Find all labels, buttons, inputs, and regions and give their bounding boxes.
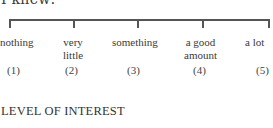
section-heading: LEVEL OF INTEREST — [1, 104, 125, 119]
scale-label-5: a lot — [245, 36, 264, 49]
scale-label-text: amount — [184, 49, 217, 62]
scale-label-text: little — [63, 49, 83, 62]
scale-tick-5 — [268, 19, 270, 28]
scale-number-3: (3) — [127, 64, 140, 76]
scale-tick-3 — [137, 19, 139, 28]
scale-line — [9, 19, 269, 21]
scale-number-4: (4) — [193, 64, 206, 76]
prompt-text: I knew: — [1, 0, 56, 7]
scale-number-1: (1) — [7, 64, 20, 76]
scale-tick-4 — [202, 19, 204, 28]
scale-label-2: very little — [63, 36, 83, 62]
scale-tick-1 — [9, 19, 11, 28]
scale-label-text: very — [63, 36, 83, 49]
scale-label-text: nothing — [0, 36, 34, 49]
scale-label-3: something — [112, 36, 158, 49]
scale-label-text: something — [112, 36, 158, 49]
scale-label-1: nothing — [0, 36, 34, 49]
scale-label-text: a lot — [245, 36, 264, 49]
scale-label-text: a good — [184, 36, 217, 49]
scale-number-2: (2) — [65, 64, 78, 76]
scale-tick-2 — [73, 19, 75, 28]
scale-label-4: a good amount — [184, 36, 217, 62]
scale-number-5: (5) — [256, 64, 269, 76]
